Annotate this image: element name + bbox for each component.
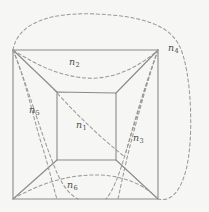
region-boundary-n1 — [50, 85, 125, 157]
figure-container: n1 n2 n3 n4 n5 n6 — [0, 0, 209, 212]
region-label-n3-subscript: 3 — [139, 137, 143, 145]
connecting-edge-bottom-left — [13, 160, 57, 199]
region-label-n4-subscript: 4 — [174, 47, 178, 55]
region-label-n1: n1 — [76, 120, 87, 130]
region-label-n5: n5 — [29, 105, 40, 115]
region-label-n6-subscript: 6 — [73, 184, 77, 192]
region-label-n2: n2 — [69, 57, 80, 67]
region-boundary-n5-arc — [13, 50, 78, 199]
region-boundary-n5 — [13, 50, 57, 199]
region-boundary-n2 — [13, 50, 158, 78]
region-label-n5-subscript: 5 — [35, 109, 39, 117]
region-label-n6: n6 — [67, 180, 78, 190]
region-boundary-n3 — [118, 50, 158, 199]
connecting-edge-top-right — [116, 50, 158, 93]
region-label-n2-subscript: 2 — [75, 61, 79, 69]
region-boundary-n4 — [13, 14, 191, 200]
region-label-n1-subscript: 1 — [82, 124, 86, 132]
region-label-n4: n4 — [168, 43, 179, 53]
region-label-n3: n3 — [133, 133, 144, 143]
